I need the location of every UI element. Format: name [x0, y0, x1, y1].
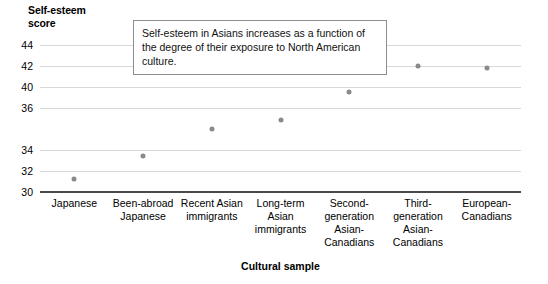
- y-axis-tick-label: 36: [21, 103, 33, 114]
- x-axis-tick-label: European- Canadians: [452, 197, 521, 249]
- data-point: [141, 154, 146, 159]
- y-axis-tick-label: 40: [21, 82, 33, 93]
- y-axis-title: Self-esteem score: [28, 4, 86, 30]
- gridline: [40, 171, 521, 172]
- x-axis-tick-label: Japanese: [40, 197, 109, 249]
- x-axis-line: [40, 191, 521, 193]
- x-axis-title: Cultural sample: [40, 260, 521, 272]
- data-point: [347, 90, 352, 95]
- x-axis-tick-label: Been-abroad Japanese: [109, 197, 178, 249]
- data-point: [484, 66, 489, 71]
- y-axis-tick-label: 32: [21, 166, 33, 177]
- gridline: [40, 87, 521, 88]
- x-axis-tick-label: Long-term Asian immigrants: [246, 197, 315, 249]
- gridline: [40, 150, 521, 151]
- y-axis-tick-label: 42: [21, 61, 33, 72]
- data-point: [415, 64, 420, 69]
- gridline: [40, 108, 521, 109]
- data-point: [278, 117, 283, 122]
- annotation-callout: Self-esteem in Asians increases as a fun…: [133, 20, 387, 75]
- data-point: [209, 127, 214, 132]
- x-axis-tick-labels: JapaneseBeen-abroad JapaneseRecent Asian…: [40, 197, 521, 249]
- data-point: [72, 177, 77, 182]
- y-axis-tick-label: 30: [21, 187, 33, 198]
- y-axis-tick-label: 44: [21, 40, 33, 51]
- y-axis-tick-label: 34: [21, 145, 33, 156]
- x-axis-tick-label: Third- generation Asian- Canadians: [384, 197, 453, 249]
- x-axis-tick-label: Second- generation Asian- Canadians: [315, 197, 384, 249]
- x-axis-tick-label: Recent Asian immigrants: [177, 197, 246, 249]
